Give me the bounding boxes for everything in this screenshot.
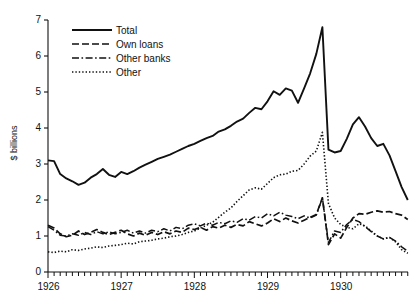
series-line-own-loans: [48, 198, 408, 245]
legend-label-total: Total: [116, 25, 137, 36]
y-tick-label: 2: [35, 194, 41, 205]
y-tick-label: 5: [35, 86, 41, 97]
y-tick-label: 0: [35, 266, 41, 277]
x-tick-label: 1928: [184, 281, 207, 292]
x-tick-label: 1927: [111, 281, 134, 292]
y-tick-label: 6: [35, 50, 41, 61]
series-line-other-banks: [48, 198, 408, 251]
legend-label-own-loans: Own loans: [116, 39, 163, 50]
chart-figure: 0123456719261927192819291930TotalOwn loa…: [0, 0, 416, 301]
legend-label-other: Other: [116, 67, 142, 78]
y-tick-label: 7: [35, 14, 41, 25]
y-axis-label: $ billions: [9, 103, 19, 183]
x-tick-label: 1930: [330, 281, 353, 292]
x-tick-label: 1929: [257, 281, 280, 292]
y-tick-label: 4: [35, 122, 41, 133]
y-tick-label: 1: [35, 230, 41, 241]
series-line-total: [48, 27, 408, 200]
y-tick-label: 3: [35, 158, 41, 169]
legend-label-other-banks: Other banks: [116, 53, 170, 64]
series-line-other: [48, 132, 408, 253]
chart-plot-area: 0123456719261927192819291930TotalOwn loa…: [0, 0, 416, 301]
x-tick-label: 1926: [37, 281, 60, 292]
